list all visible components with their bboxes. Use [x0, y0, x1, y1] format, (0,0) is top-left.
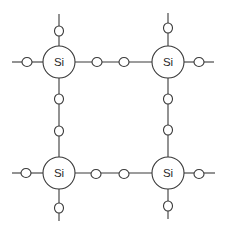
electron-icon: [92, 58, 102, 67]
electron-icon: [55, 126, 64, 136]
silicon-lattice-diagram: Si Si Si Si: [0, 0, 227, 231]
atom-si-top-left: Si: [43, 46, 75, 78]
electron-icon: [119, 58, 129, 67]
covalent-bonds: [59, 62, 168, 173]
electron-icon: [55, 26, 64, 36]
atom-label: Si: [54, 56, 64, 68]
electron-icon: [119, 170, 129, 179]
electron-icon: [164, 201, 173, 211]
atom-label: Si: [163, 167, 173, 179]
electron-icon: [55, 94, 64, 104]
electron-icon: [55, 203, 64, 213]
atom-si-top-right: Si: [152, 46, 184, 78]
atom-si-bottom-left: Si: [43, 157, 75, 189]
electron-icon: [194, 170, 204, 179]
electron-icon: [22, 58, 32, 67]
electron-icon: [164, 94, 173, 104]
electron-icon: [164, 23, 173, 33]
electron-icon: [194, 58, 204, 67]
electron-icon: [21, 169, 31, 178]
atom-label: Si: [54, 167, 64, 179]
dangling-bonds: [12, 13, 215, 221]
atom-si-bottom-right: Si: [152, 157, 184, 189]
electron-icon: [164, 125, 173, 135]
electron-icon: [91, 170, 101, 179]
atom-label: Si: [163, 56, 173, 68]
